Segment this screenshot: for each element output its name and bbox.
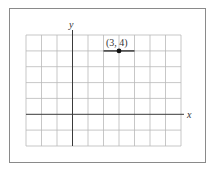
point-marker xyxy=(117,49,122,54)
coordinate-plane-figure: y x (3, 4) xyxy=(0,0,215,172)
x-axis-label: x xyxy=(186,109,192,120)
y-axis-label: y xyxy=(68,19,74,30)
figure-frame xyxy=(10,9,206,163)
point-label: (3, 4) xyxy=(106,37,128,49)
